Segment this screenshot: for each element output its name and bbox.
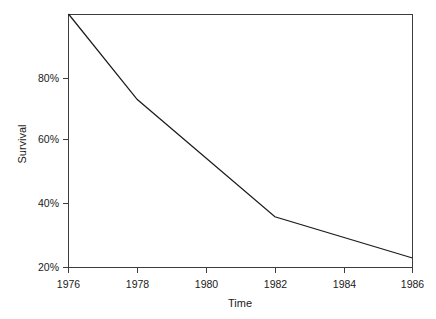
x-axis-tick-labels: 1976 1978 1980 1982 1984 1986 bbox=[57, 278, 425, 290]
x-tick-label-1980: 1980 bbox=[195, 278, 219, 290]
y-tick-label-80: 80% bbox=[38, 72, 59, 84]
y-axis-tick-labels: 20% 40% 60% 80% bbox=[38, 72, 59, 273]
x-tick-label-1986: 1986 bbox=[401, 278, 425, 290]
y-axis-ticks bbox=[63, 79, 69, 268]
y-tick-label-40: 40% bbox=[38, 197, 59, 209]
survival-data-line bbox=[69, 14, 413, 258]
x-tick-label-1978: 1978 bbox=[126, 278, 150, 290]
x-tick-label-1976: 1976 bbox=[57, 278, 81, 290]
x-tick-label-1984: 1984 bbox=[333, 278, 357, 290]
y-tick-label-60: 60% bbox=[38, 133, 59, 145]
survival-line-chart: 20% 40% 60% 80% 1976 1978 1980 1982 1984… bbox=[0, 0, 436, 319]
y-tick-label-20: 20% bbox=[38, 261, 59, 273]
x-tick-label-1982: 1982 bbox=[264, 278, 288, 290]
x-axis-ticks bbox=[69, 268, 413, 274]
y-axis-title: Survival bbox=[16, 124, 28, 163]
plot-frame bbox=[69, 14, 414, 268]
x-axis-title: Time bbox=[228, 297, 252, 309]
chart-canvas: 20% 40% 60% 80% 1976 1978 1980 1982 1984… bbox=[0, 0, 436, 319]
